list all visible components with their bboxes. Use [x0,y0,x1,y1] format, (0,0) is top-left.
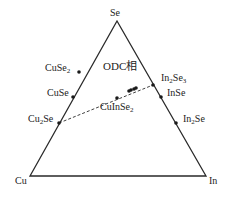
vertex-label-cu: Cu [15,176,27,186]
region-label-odc: ODC相 [103,61,137,71]
cuinse2-point-0 [115,96,119,100]
vertex-label-in: In [209,176,217,186]
vertex-label-se: Se [110,8,120,18]
phase-label-cu2se: Cu2Se [28,114,53,124]
phase-point-cuse [71,95,75,99]
cuinse2-formula: CuIn [100,101,120,112]
phase-point-inse [159,95,163,99]
cuinse2-subscript: 2 [130,106,134,114]
phase-point-in2se3 [151,83,155,87]
phase-label-in2se3: In2Se3 [161,73,186,83]
phase-label-cuse2: CuSe2 [45,63,70,73]
cuinse2-point-4 [134,86,138,90]
ternary-phase-diagram [0,0,231,197]
tie-line-label-cuinse2: CuInSe2 [100,102,134,112]
phase-label-cuse: CuSe [47,88,69,98]
cuinse2-tail: Se [120,101,130,112]
phase-label-in2se: In2Se [183,114,205,124]
phase-point-cu2se [57,121,61,125]
phase-label-inse: InSe [167,88,185,98]
phase-point-in2se [174,121,178,125]
phase-point-cuse2 [77,70,81,74]
